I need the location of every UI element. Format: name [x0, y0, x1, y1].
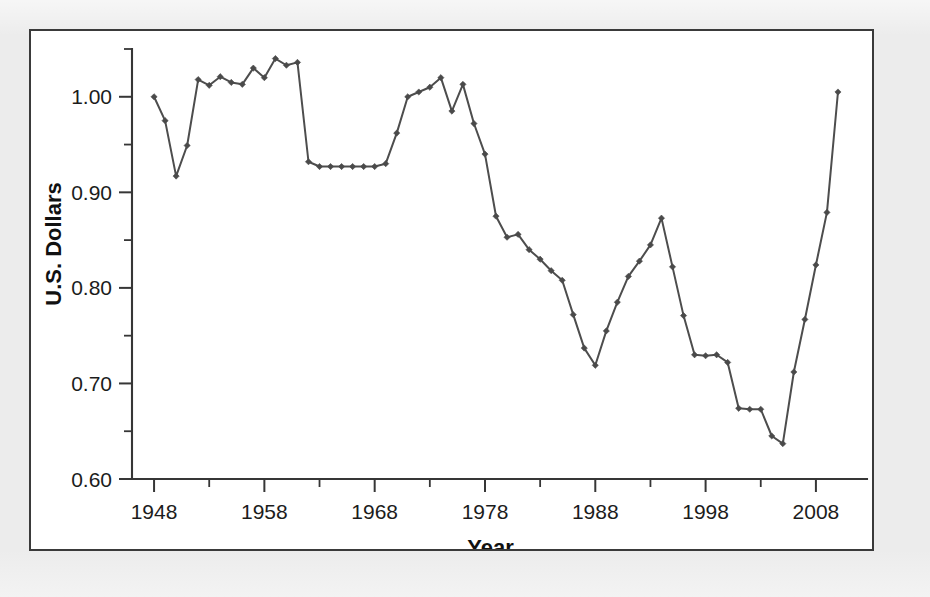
data-point-marker: [703, 353, 709, 359]
data-point-marker: [603, 328, 609, 334]
axis-spines: [132, 49, 867, 479]
data-point-marker: [173, 173, 179, 179]
data-point-marker: [835, 89, 841, 95]
data-point-marker: [482, 151, 488, 157]
data-point-marker: [570, 312, 576, 318]
figure-page: 1948195819681978198819982008 0.600.700.8…: [0, 0, 930, 597]
data-point-marker: [151, 94, 157, 100]
x-tick-label: 1948: [131, 500, 178, 523]
data-point-marker: [791, 369, 797, 375]
x-tick-group: [154, 479, 816, 492]
y-tick-label: 1.00: [71, 85, 112, 108]
data-point-marker: [327, 163, 333, 169]
y-tick-label-group: 0.600.700.800.901.00: [71, 85, 112, 490]
data-point-marker: [405, 94, 411, 100]
data-point-marker: [383, 161, 389, 167]
data-marker-group: [151, 55, 841, 446]
data-point-marker: [372, 163, 378, 169]
data-point-marker: [691, 352, 697, 358]
x-tick-label: 1958: [241, 500, 288, 523]
y-tick-group: [119, 49, 132, 479]
line-chart: 1948195819681978198819982008 0.600.700.8…: [31, 31, 872, 549]
data-point-marker: [350, 163, 356, 169]
x-tick-label: 1988: [572, 500, 619, 523]
data-line-path: [154, 59, 838, 444]
data-point-marker: [824, 209, 830, 215]
axis-group: [132, 49, 867, 479]
data-point-marker: [736, 405, 742, 411]
data-point-marker: [747, 406, 753, 412]
data-point-marker: [658, 215, 664, 221]
data-point-marker: [813, 262, 819, 268]
figure-frame: 1948195819681978198819982008 0.600.700.8…: [29, 29, 874, 551]
data-point-marker: [460, 81, 466, 87]
x-tick-label: 2008: [793, 500, 840, 523]
data-point-marker: [680, 313, 686, 319]
data-point-marker: [316, 163, 322, 169]
data-point-marker: [802, 316, 808, 322]
data-point-marker: [394, 130, 400, 136]
y-tick-label: 0.60: [71, 468, 112, 491]
x-tick-label-group: 1948195819681978198819982008: [131, 500, 840, 523]
data-point-marker: [294, 59, 300, 65]
data-series-group: [154, 59, 838, 444]
data-point-marker: [669, 264, 675, 270]
x-axis-title: Year: [467, 535, 514, 549]
x-tick-label: 1968: [351, 500, 398, 523]
y-tick-label: 0.80: [71, 276, 112, 299]
y-tick-label: 0.70: [71, 372, 112, 395]
x-tick-label: 1998: [682, 500, 729, 523]
data-point-marker: [338, 163, 344, 169]
data-point-marker: [416, 89, 422, 95]
y-tick-label: 0.90: [71, 181, 112, 204]
x-tick-label: 1978: [462, 500, 509, 523]
data-point-marker: [184, 142, 190, 148]
data-point-marker: [162, 118, 168, 124]
data-point-marker: [361, 163, 367, 169]
y-axis-title: U.S. Dollars: [41, 182, 66, 305]
data-point-marker: [471, 120, 477, 126]
data-point-marker: [758, 406, 764, 412]
data-point-marker: [305, 159, 311, 165]
data-point-marker: [449, 108, 455, 114]
data-point-marker: [614, 299, 620, 305]
